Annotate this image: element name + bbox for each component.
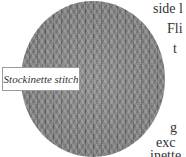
- body-text-line: g: [170, 120, 177, 136]
- body-text-line: Fli: [167, 21, 183, 37]
- body-text-line: t: [173, 41, 177, 57]
- body-text-line: side l: [153, 1, 183, 17]
- body-text-line: inette: [150, 148, 181, 157]
- swatch-caption: Stockinette stitch: [2, 67, 80, 91]
